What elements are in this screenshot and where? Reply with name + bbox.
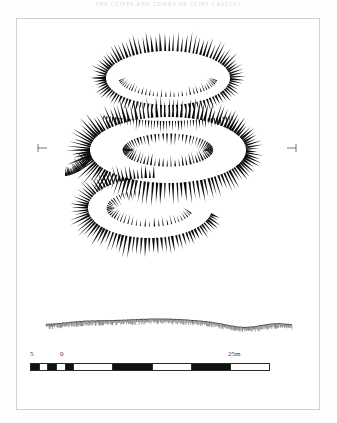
scale-bar-segment: [39, 364, 48, 370]
scale-bar: 5 0 25m: [30, 350, 275, 380]
scale-bar-segment: [47, 364, 56, 370]
scale-bar-segment: [56, 364, 65, 370]
scale-bar-segment: [191, 364, 230, 370]
scale-bar-segment: [152, 364, 191, 370]
scale-bar-track: [30, 363, 270, 371]
scale-label-zero: 0: [60, 350, 64, 358]
left-registration-tick: [38, 144, 47, 152]
scale-label-left: 5: [30, 350, 34, 358]
scale-bar-segment: [65, 364, 74, 370]
right-registration-tick: [287, 144, 296, 152]
hachure-plan: [65, 32, 264, 258]
scale-bar-segment: [230, 364, 269, 370]
figure-page: The Cliffs and Towns of Cliff Castles: [0, 0, 337, 423]
scale-bar-segment: [31, 364, 39, 370]
scale-bar-labels: 5 0 25m: [30, 350, 275, 361]
section-profile: [46, 319, 292, 332]
scale-label-right: 25m: [228, 350, 240, 358]
scale-bar-segment: [73, 364, 112, 370]
scale-bar-segment: [112, 364, 151, 370]
